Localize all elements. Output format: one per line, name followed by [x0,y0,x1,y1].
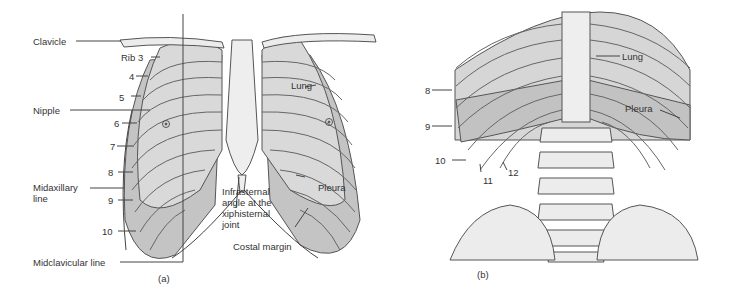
label-rib-10-b: 10 [435,155,446,166]
label-rib-9: 9 [108,195,113,206]
label-rib-8-b: 8 [425,85,430,96]
label-clavicle: Clavicle [33,36,66,47]
label-rib-10: 10 [102,226,113,237]
caption-b: (b) [477,269,489,280]
label-midaxillary-line: Midaxillary line [33,182,87,204]
label-costal-margin: Costal margin [233,241,292,252]
label-pleura-a: Pleura [318,182,345,193]
label-rib-3: Rib 3 [121,52,143,63]
caption-a: (a) [158,273,170,284]
label-midclavicular-line: Midclavicular line [33,257,105,268]
thorax-posterior [432,12,698,262]
label-infrasternal-angle: Infrasternal angle at the xiphisternal j… [222,186,280,230]
label-nipple: Nipple [33,105,60,116]
label-rib-5: 5 [119,92,124,103]
label-rib-12-b: 12 [508,167,519,178]
label-rib-7: 7 [110,141,115,152]
label-pleura-b: Pleura [625,103,652,114]
label-rib-9-b: 9 [425,121,430,132]
label-rib-11-b: 11 [483,175,493,186]
label-rib-6: 6 [114,118,119,129]
label-rib-4: 4 [129,71,134,82]
label-rib-8: 8 [108,167,113,178]
label-lung-b: Lung [622,51,643,62]
label-lung-a: Lung [291,80,312,91]
